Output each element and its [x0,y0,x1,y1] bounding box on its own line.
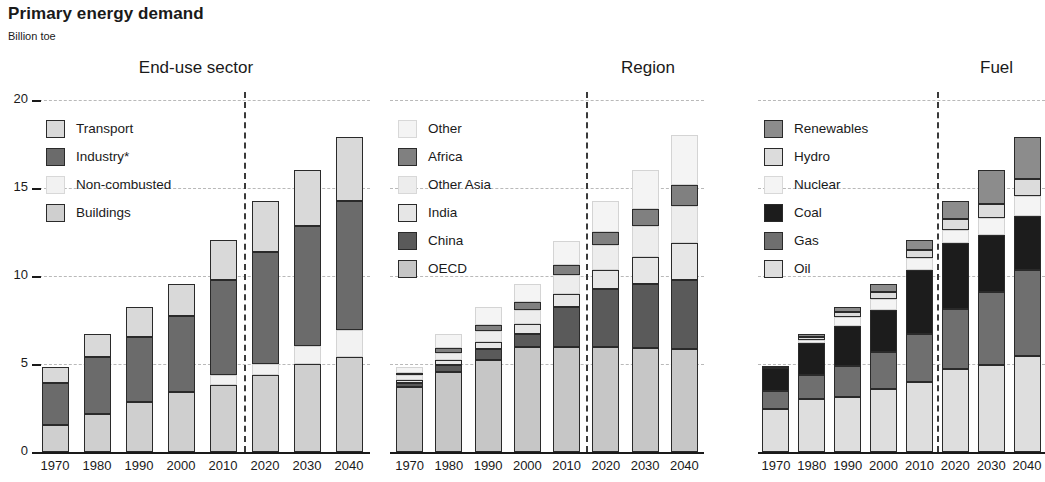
bar-segment [978,292,1005,365]
bar-segment [942,309,969,370]
bar-segment [1014,356,1041,452]
bar-segment [978,170,1005,204]
legend-swatch-icon [764,232,783,250]
bar-segment [906,240,933,250]
bar-segment [870,292,897,299]
bar-segment [942,369,969,452]
bar-segment [762,391,789,409]
legend-label: Oil [794,258,811,280]
primary-energy-demand-figure: Primary energy demand Billion toe End-us… [0,0,1045,482]
bar-segment [798,375,825,399]
panel-fuel: Fuel19701980199020002010202020302040Rene… [0,0,1045,482]
bar-1980 [798,334,825,452]
bar-segment [834,317,861,326]
bar-segment [798,399,825,452]
legend-label: Gas [794,230,819,252]
legend-swatch-icon [764,120,783,138]
legend-swatch-icon [764,260,783,278]
bar-segment [978,365,1005,452]
bar-segment [798,334,825,337]
bar-segment [906,382,933,452]
bar-segment [870,284,897,292]
bar-segment [834,307,861,312]
bar-segment [798,343,825,376]
bar-segment [834,326,861,366]
bar-segment [942,230,969,243]
bar-segment [906,334,933,382]
bar-segment [798,340,825,343]
x-axis-tick-label: 2040 [997,458,1045,473]
axis-baseline [758,452,1045,454]
bar-segment [798,337,825,341]
panel-title: Fuel [980,58,1013,78]
legend-label: Nuclear [794,174,841,196]
history-forecast-divider [937,92,939,452]
bar-segment [1014,137,1041,179]
bar-segment [942,243,969,308]
bar-1970 [762,367,789,452]
bar-segment [834,366,861,397]
legend-label: Coal [794,202,822,224]
bar-segment [762,368,789,391]
bar-segment [906,250,933,259]
bar-segment [870,299,897,310]
bar-segment [1014,270,1041,356]
bar-segment [978,235,1005,292]
bar-1990 [834,307,861,452]
legend-swatch-icon [764,176,783,194]
bar-segment [942,219,969,230]
legend-label: Hydro [794,146,830,168]
bar-segment [942,201,969,219]
bar-segment [906,270,933,334]
bar-segment [870,389,897,452]
bar-segment [762,366,789,368]
bar-2010 [906,240,933,452]
bar-2000 [870,284,897,452]
legend-swatch-icon [764,204,783,222]
legend-swatch-icon [764,148,783,166]
bar-segment [762,409,789,452]
bar-segment [834,397,861,452]
legend-label: Renewables [794,118,868,140]
bar-segment [978,218,1005,235]
bar-segment [1014,179,1041,196]
bar-segment [906,258,933,269]
bar-2040 [1014,137,1041,452]
bar-segment [1014,216,1041,270]
gridline-20 [758,100,1045,101]
bar-segment [834,312,861,317]
bar-segment [870,310,897,351]
bar-2030 [978,170,1005,452]
bar-segment [978,204,1005,218]
bar-segment [1014,196,1041,216]
bar-2020 [942,201,969,452]
bar-segment [870,352,897,389]
